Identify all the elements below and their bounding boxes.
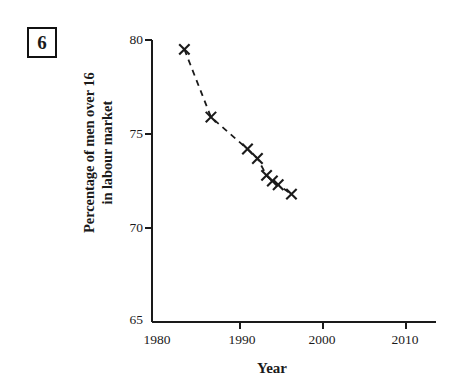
- y-axis-ticks: [145, 40, 152, 228]
- series-polyline: [184, 49, 291, 194]
- x-axis-ticks: [240, 322, 406, 329]
- data-point-marker: [179, 44, 189, 54]
- data-markers-group: [179, 44, 296, 199]
- figure-container: 6 Percentage of men over 16 in labour ma…: [0, 0, 456, 392]
- data-point-marker: [242, 144, 252, 154]
- data-point-marker: [267, 176, 277, 186]
- data-point-marker: [286, 189, 296, 199]
- data-point-marker: [273, 180, 283, 190]
- data-point-marker: [252, 153, 262, 163]
- data-point-marker: [206, 112, 216, 122]
- data-line-dashed: [184, 49, 291, 194]
- plot-area: [0, 0, 456, 392]
